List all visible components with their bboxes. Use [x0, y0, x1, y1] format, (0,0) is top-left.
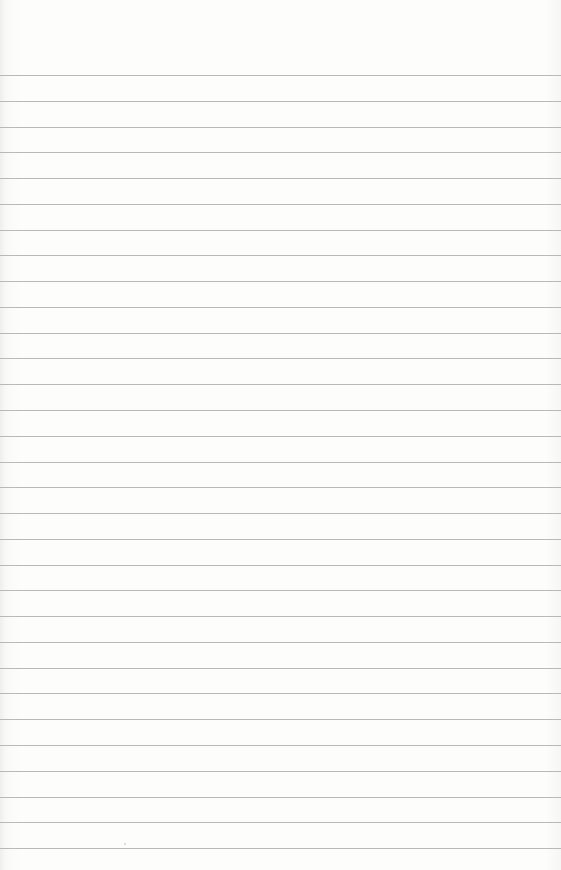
lined-paper-sheet	[0, 0, 561, 870]
ruled-line	[0, 668, 561, 669]
ruled-line	[0, 75, 561, 76]
ruled-line	[0, 565, 561, 566]
ruled-line	[0, 513, 561, 514]
ruled-line	[0, 822, 561, 823]
ruled-line	[0, 487, 561, 488]
ruled-line	[0, 281, 561, 282]
paper-speck	[124, 843, 126, 845]
ruled-line	[0, 616, 561, 617]
ruled-line	[0, 745, 561, 746]
ruled-line	[0, 333, 561, 334]
ruled-line	[0, 436, 561, 437]
ruled-line	[0, 719, 561, 720]
ruled-line	[0, 178, 561, 179]
ruled-line	[0, 771, 561, 772]
ruled-line	[0, 797, 561, 798]
ruled-line	[0, 642, 561, 643]
ruled-line	[0, 127, 561, 128]
ruled-line	[0, 384, 561, 385]
ruled-line	[0, 848, 561, 849]
ruled-line	[0, 204, 561, 205]
ruled-line	[0, 539, 561, 540]
ruled-line	[0, 590, 561, 591]
ruled-line	[0, 307, 561, 308]
ruled-line	[0, 255, 561, 256]
ruled-line	[0, 693, 561, 694]
ruled-line	[0, 101, 561, 102]
ruled-line	[0, 462, 561, 463]
ruled-line	[0, 410, 561, 411]
ruled-line	[0, 230, 561, 231]
ruled-line	[0, 358, 561, 359]
ruled-line	[0, 152, 561, 153]
